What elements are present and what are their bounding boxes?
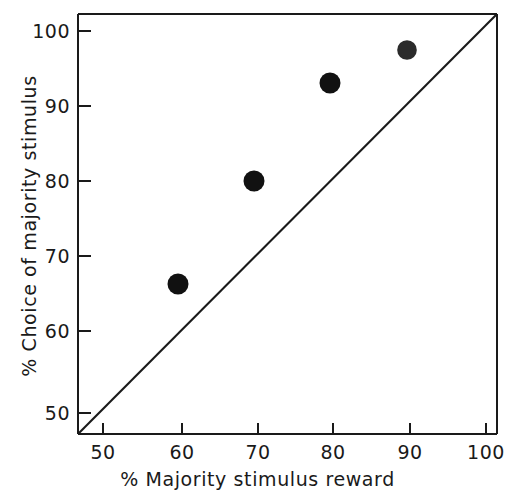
data-point [244,171,265,192]
scatter-plot-figure: 100 90 80 70 60 50 50 60 70 80 90 100 % … [0,0,515,500]
x-tick-label-60: 60 [152,441,212,463]
x-axis-ticks [103,423,486,434]
x-tick-label-100: 100 [456,441,515,463]
y-axis-label: % Choice of majority stimulus [18,75,40,377]
x-axis-label: % Majority stimulus reward [0,468,515,490]
data-point [397,40,417,60]
data-point [168,274,189,295]
data-point-series [168,40,417,294]
x-tick-label-80: 80 [303,441,363,463]
y-axis-ticks [78,31,91,413]
x-tick-label-90: 90 [380,441,440,463]
plot-canvas [0,0,515,500]
data-point [320,73,341,94]
identity-line [78,14,497,434]
y-axis-label-container: % Choice of majority stimulus [18,1,42,451]
x-tick-label-50: 50 [73,441,133,463]
x-tick-label-70: 70 [228,441,288,463]
